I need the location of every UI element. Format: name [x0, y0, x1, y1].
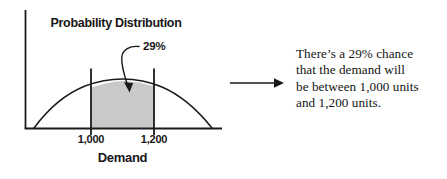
caption-line-2: that the demand will — [296, 62, 436, 78]
right-arrow-icon — [228, 66, 290, 100]
caption-line-3: be between 1,000 units — [296, 79, 436, 95]
explanation-caption: There’s a 29% chance that the demand wil… — [296, 46, 436, 111]
shaded-probability-region — [91, 81, 154, 128]
x-tick-label-1000: 1,000 — [69, 133, 113, 145]
caption-line-1: There’s a 29% chance — [296, 46, 436, 62]
x-axis-title: Demand — [60, 150, 185, 165]
probability-distribution-figure: Probability Distribution 29% 1,000 1,200… — [0, 0, 447, 179]
probability-distribution-chart: Probability Distribution 29% 1,000 1,200… — [0, 0, 232, 179]
chart-title: Probability Distribution — [38, 16, 194, 30]
x-tick-label-1200: 1,200 — [132, 133, 176, 145]
caption-line-4: and 1,200 units. — [296, 95, 436, 111]
shaded-area-percent-label: 29% — [143, 40, 165, 52]
